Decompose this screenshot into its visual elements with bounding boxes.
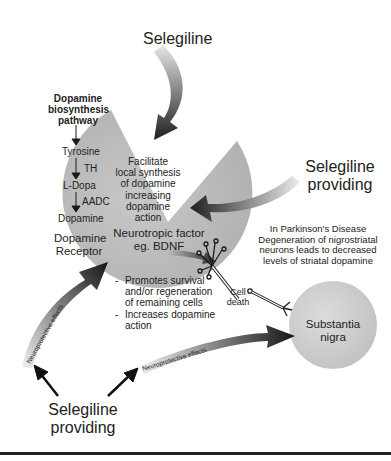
effect-1-line3: of remaining cells <box>125 297 212 308</box>
facilitate-line2: local synthesis <box>108 167 188 178</box>
effect-item-2: - Increases dopamine action <box>115 309 215 331</box>
bottom-arrow-label: Neuroprotective effects <box>141 346 208 373</box>
effect-2-line2: action <box>125 320 215 331</box>
pathway-heading-line1: Dopamine <box>48 93 108 104</box>
cell-death-line1: Cell <box>225 287 251 297</box>
pathway-enzyme-th: TH <box>84 163 97 174</box>
pathway-heading-line3: pathway <box>48 115 108 126</box>
pathway-heading: Dopamine biosynthesis pathway <box>48 93 108 127</box>
bottom-divider-line <box>0 452 391 455</box>
substantia-nigra-label: Substantia nigra <box>292 318 374 344</box>
pathway-step-tyrosine: Tyrosine <box>62 146 100 157</box>
nigra-line2: nigra <box>292 331 374 344</box>
effect-1-line2: and/or regeneration <box>125 286 212 297</box>
facilitate-line5: dopamine <box>108 201 188 212</box>
effect-item-1: - Promotes survival and/or regeneration … <box>115 275 215 309</box>
right-selegiline-label: Selegiline providing <box>300 158 380 194</box>
top-selegiline-arrow <box>154 45 183 140</box>
receptor-line1: Dopamine <box>54 232 104 245</box>
facilitate-line1: Facilitate <box>108 156 188 167</box>
right-selegiline-line2: providing <box>300 176 380 194</box>
bottom-neuroprotective-arrow <box>140 325 295 374</box>
parkinsons-note: In Parkinson's Disease Degeneration of n… <box>250 224 386 267</box>
effect-2-line1: Increases dopamine <box>125 309 215 320</box>
left-arrow-label: Neuroprotective effects <box>25 303 66 365</box>
neurotropic-line1: Neurotropic factor <box>109 227 209 240</box>
facilitate-line3: of dopamine <box>108 178 188 189</box>
nigra-line1: Substantia <box>292 318 374 331</box>
facilitate-line4: increasing <box>108 190 188 201</box>
neurotropic-factor-label: Neurotropic factor eg. BDNF <box>109 227 209 253</box>
effect-bullet-1: - <box>115 275 125 309</box>
cell-death-label: Cell death <box>225 287 251 307</box>
bottom-selegiline-line2: providing <box>40 419 126 437</box>
effects-list: - Promotes survival and/or regeneration … <box>115 275 215 331</box>
parkinsons-line4: levels of striatal dopamine <box>250 256 386 267</box>
right-selegiline-line1: Selegiline <box>300 158 380 176</box>
pathway-step-l-dopa: L-Dopa <box>63 180 96 191</box>
bottom-selegiline-line1: Selegiline <box>40 401 126 419</box>
cell-death-line2: death <box>225 297 251 307</box>
pathway-step-dopamine: Dopamine <box>58 213 104 224</box>
effect-bullet-2: - <box>115 309 125 331</box>
top-selegiline-label: Selegiline <box>143 30 212 48</box>
pathway-enzyme-aadc: AADC <box>82 196 110 207</box>
receptor-line2: Receptor <box>54 245 104 258</box>
bottom-pointer-arrows <box>34 365 138 396</box>
facilitate-line6: action <box>108 212 188 223</box>
effect-1-line1: Promotes survival <box>125 275 212 286</box>
facilitate-text: Facilitate local synthesis of dopamine i… <box>108 156 188 223</box>
neurotropic-line2: eg. BDNF <box>109 240 209 253</box>
bottom-selegiline-label: Selegiline providing <box>40 401 126 437</box>
dopamine-receptor-label: Dopamine Receptor <box>54 232 104 258</box>
pathway-heading-line2: biosynthesis <box>48 104 108 115</box>
dying-neuron <box>248 289 292 316</box>
